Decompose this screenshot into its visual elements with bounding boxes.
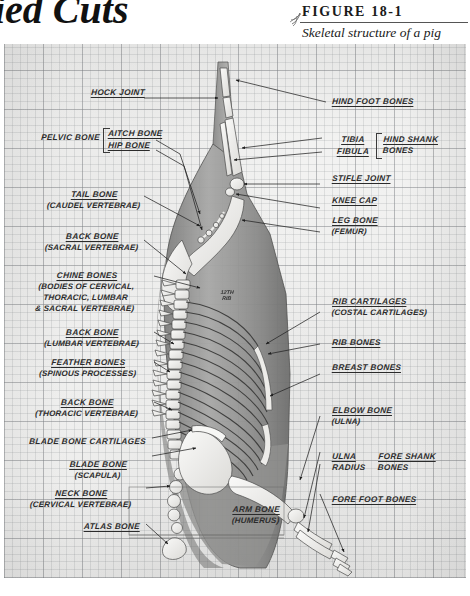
figure-caption-block: FIGURE 18-1 Skeletal structure of a pig [300, 4, 470, 41]
label-back-bone-sacral: BACK BONE (SACRAL VERTEBRAE) [35, 232, 148, 253]
label-rib-bones: RIB BONES [332, 338, 381, 349]
label-tail-bone: TAIL BONE (CAUDEL VERTEBRAE) [39, 190, 148, 211]
label-fore-foot-bones: FORE FOOT BONES [332, 495, 417, 506]
label-hind-foot-bones: HIND FOOT BONES [332, 97, 414, 108]
label-pelvic-bone: PELVIC BONE [20, 133, 101, 144]
page-header: ied Cuts FIGURE 18-1 Skeletal structure … [0, 0, 470, 40]
label-neck-bone: NECK BONE (CERVICAL VERTEBRAE) [19, 489, 142, 510]
label-radius: RADIUS [332, 463, 366, 474]
label-blade-bone: BLADE BONE (SCAPULA) [49, 460, 146, 481]
label-hip-bone: HIP BONE [108, 141, 151, 152]
label-elbow-bone: ELBOW BONE (ULNA) [331, 406, 392, 427]
flourish-ornament-icon [290, 11, 304, 27]
label-breast-bones: BREAST BONES [332, 363, 402, 374]
rib-number-note: 12TH RIB [206, 289, 247, 301]
label-aitch-bone: AITCH BONE [108, 129, 163, 140]
label-arm-bone: ARM BONE (HUMERUS) [205, 505, 306, 526]
label-back-bone-lumbar: BACK BONE (LUMBAR VERTEBRAE) [35, 328, 148, 349]
label-fibula: FIBULA [332, 147, 375, 158]
label-fore-shank-bones: FORE SHANK BONES [377, 452, 436, 473]
hind-shank-bracket [376, 133, 382, 159]
label-blade-bone-cartilages: BLADE BONE CARTILAGES [18, 437, 147, 448]
figure-caption-text: Skeletal structure of a pig [300, 25, 470, 41]
label-knee-cap: KNEE CAP [332, 196, 378, 207]
figure-number-label: FIGURE 18-1 [300, 4, 470, 20]
label-ulna: ULNA [332, 452, 357, 463]
label-back-bone-thoracic: BACK BONE (THORACIC VERTEBRAE) [25, 398, 148, 419]
label-leg-bone: LEG BONE (FEMUR) [331, 216, 378, 237]
figure-rule [300, 22, 468, 23]
label-atlas-bone: ATLAS BONE [52, 522, 141, 533]
label-feather-bones: FEATHER BONES (SPINOUS PROCESSES) [27, 358, 148, 379]
label-chine-bones: CHINE BONES (BODIES OF CERVICAL, THORACI… [18, 270, 153, 314]
label-hock-joint: HOCK JOINT [40, 88, 146, 99]
label-rib-cartilages: RIB CARTILAGES (COSTAL CARTILAGES) [331, 297, 428, 318]
label-tibia: TIBIA [332, 135, 375, 146]
label-stifle-joint: STIFLE JOINT [332, 174, 392, 185]
book-title: ied Cuts [0, 0, 128, 33]
label-hind-shank-bones: HIND SHANK BONES [382, 135, 438, 156]
